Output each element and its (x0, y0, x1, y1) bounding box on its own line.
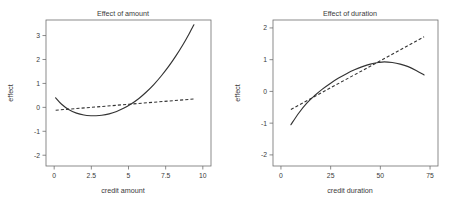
x-tick-label: 7.5 (161, 172, 171, 179)
y-tick-label: -1 (34, 128, 40, 135)
x-axis-label: credit amount (101, 186, 145, 195)
x-tick-label: 0 (279, 172, 283, 179)
x-tick-label: 10 (199, 172, 207, 179)
plot-frame (273, 20, 438, 166)
x-tick-label: 5 (127, 172, 131, 179)
chart-title: Effect of amount (97, 9, 149, 18)
x-tick-label: 0 (52, 172, 56, 179)
chart-panel-amount: Effect of amount 02.557.510-2-10123 cred… (0, 0, 226, 209)
series-smooth-effect-solid (56, 25, 194, 116)
chart-svg-amount: Effect of amount 02.557.510-2-10123 cred… (0, 0, 226, 209)
plot-area: 02.557.510-2-10123 (34, 20, 211, 179)
y-tick-label: 1 (263, 56, 267, 63)
y-tick-label: -2 (34, 152, 40, 159)
series-smooth-effect-solid (291, 62, 424, 125)
y-axis-label: effect (6, 84, 15, 101)
x-axis-label: credit duration (327, 186, 373, 195)
chart-panel-duration: Effect of duration 0255075-2-1012 credit… (227, 0, 453, 209)
plot-area: 0255075-2-1012 (261, 20, 438, 179)
y-tick-label: 1 (36, 80, 40, 87)
y-axis-label: effect (233, 84, 242, 101)
series-linear-effect-dashed (56, 99, 194, 110)
x-tick-label: 75 (426, 172, 434, 179)
y-tick-label: 2 (263, 24, 267, 31)
chart-title: Effect of duration (323, 9, 377, 18)
y-tick-label: 0 (263, 88, 267, 95)
chart-svg-duration: Effect of duration 0255075-2-1012 credit… (227, 0, 453, 209)
y-tick-label: 0 (36, 104, 40, 111)
y-tick-label: 2 (36, 56, 40, 63)
x-tick-label: 2.5 (87, 172, 97, 179)
y-tick-label: -1 (261, 120, 267, 127)
plot-frame (46, 20, 211, 166)
figure-container: Effect of amount 02.557.510-2-10123 cred… (0, 0, 453, 209)
y-tick-label: -2 (261, 151, 267, 158)
y-tick-label: 3 (36, 32, 40, 39)
x-tick-label: 50 (377, 172, 385, 179)
series-linear-effect-dashed (291, 37, 424, 110)
x-tick-label: 25 (327, 172, 335, 179)
